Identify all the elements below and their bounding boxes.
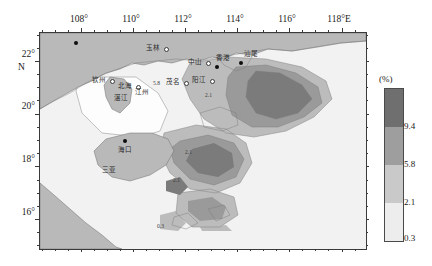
x-axis-label-108: 108° xyxy=(70,14,88,24)
place-marker-zhongshan xyxy=(206,61,211,66)
x-axis-label-116: 116° xyxy=(278,14,296,24)
x-axis-label-114: 114° xyxy=(226,14,244,24)
place-label-zhongshan: 中山 xyxy=(188,59,202,66)
place-label-beihai: 北海 xyxy=(118,83,132,90)
y-axis-label-22: 22° xyxy=(13,49,35,59)
y-axis-label-16: 16° xyxy=(13,207,35,217)
contour-label-5p8: 5.8 xyxy=(153,80,160,86)
colorbar-title: (%) xyxy=(379,74,393,84)
map-plot-area[interactable]: 玉林 钦州 北海 江州 茂名 阳江 湛江 中山 香港 汕尾 海口 三亚 2.1 … xyxy=(39,32,367,250)
place-label-yangjiang: 阳江 xyxy=(192,77,206,84)
contour-label-2p1-b: 2.1 xyxy=(173,177,180,183)
y-axis-label-20: 20° xyxy=(13,101,35,111)
map-figure: 108° 110° 112° 114° 116° 118°E 22° N 20°… xyxy=(0,0,432,266)
place-label-shanwei: 汕尾 xyxy=(244,51,258,58)
place-label-hongkong: 香港 xyxy=(216,55,230,62)
colorbar-band-2p1-5p8 xyxy=(385,165,403,203)
place-marker-maoming xyxy=(184,81,189,86)
place-label-maoming: 茂名 xyxy=(166,79,180,86)
place-label-jiangzhou: 江州 xyxy=(135,89,149,96)
place-marker-yangjiang xyxy=(210,79,215,84)
colorbar-band-5p8-9p4 xyxy=(385,127,403,165)
map-shaded-contour-layer xyxy=(40,33,366,249)
place-label-haikou: 海口 xyxy=(118,147,132,154)
place-marker-qinzhou xyxy=(110,79,115,84)
colorbar-tick-2p1: 2.1 xyxy=(404,197,415,207)
colorbar-tick-9p4: 9.4 xyxy=(404,121,415,131)
x-axis-label-118E-text: 118°E xyxy=(327,14,351,24)
contour-label-0p3: 0.3 xyxy=(157,223,164,229)
x-axis-label-118E: 118°E xyxy=(327,14,351,24)
y-axis-hemisphere-label: N xyxy=(18,62,25,72)
x-axis-label-110: 110° xyxy=(122,14,140,24)
place-label-sanya: 三亚 xyxy=(102,167,116,174)
colorbar-tick-0p3: 0.3 xyxy=(404,233,415,243)
place-marker-yulin xyxy=(164,47,169,52)
place-label-qinzhou: 钦州 xyxy=(92,77,106,84)
y-axis-label-18: 18° xyxy=(13,154,35,164)
contour-label-2p1-a: 2.1 xyxy=(205,92,212,98)
colorbar[interactable] xyxy=(384,88,404,242)
colorbar-tick-5p8: 5.8 xyxy=(404,159,415,169)
x-axis-label-112: 112° xyxy=(174,14,192,24)
place-label-zhanjiang: 湛江 xyxy=(114,95,128,102)
place-label-yulin: 玉林 xyxy=(146,45,160,52)
contour-label-2p1-c: 2.1 xyxy=(185,149,192,155)
colorbar-band-0p3-2p1 xyxy=(385,203,403,241)
colorbar-band-above-9p4 xyxy=(385,89,403,127)
